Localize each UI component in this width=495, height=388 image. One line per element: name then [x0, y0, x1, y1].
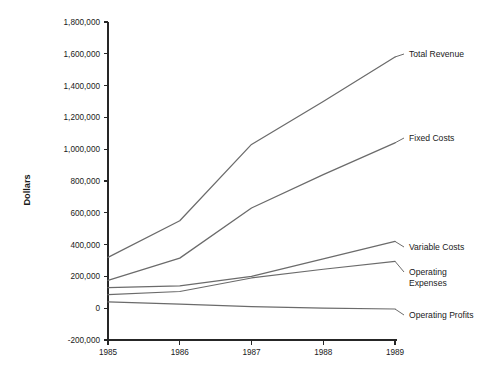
- y-tick-label: 1,400,000: [64, 82, 101, 91]
- y-axis: 1,800,0001,600,0001,400,0001,200,0001,00…: [64, 18, 108, 345]
- series-label-line: Operating Profits: [409, 310, 473, 320]
- series-line-operating-expenses: [108, 261, 395, 294]
- chart-canvas: 1,800,0001,600,0001,400,0001,200,0001,00…: [0, 0, 495, 388]
- y-tick-label: 1,000,000: [64, 145, 101, 154]
- series-label-line: Fixed Costs: [409, 133, 454, 143]
- leader-line-variable-costs: [395, 241, 404, 247]
- series-line-total-revenue: [108, 57, 395, 257]
- line-chart: 1,800,0001,600,0001,400,0001,200,0001,00…: [0, 0, 495, 388]
- leader-line-operating-profits: [395, 309, 404, 315]
- x-tick-label: 1987: [242, 348, 261, 357]
- y-tick-label: 0: [95, 304, 100, 313]
- series-label-variable-costs: Variable Costs: [409, 242, 464, 252]
- series-lines: [108, 57, 395, 309]
- series-label-line: Expenses: [409, 278, 447, 288]
- y-tick-label: -200,000: [68, 336, 101, 345]
- x-tick-label: 1985: [99, 348, 118, 357]
- series-label-total-revenue: Total Revenue: [409, 49, 464, 59]
- leader-line-fixed-costs: [395, 138, 404, 143]
- y-tick-label: 200,000: [70, 272, 100, 281]
- series-label-line: Total Revenue: [409, 49, 464, 59]
- y-tick-label: 400,000: [70, 241, 100, 250]
- axis-titles: Dollars: [22, 174, 32, 205]
- series-line-variable-costs: [108, 241, 395, 287]
- series-label-line: Variable Costs: [409, 242, 464, 252]
- series-line-operating-profits: [108, 302, 395, 309]
- y-tick-label: 1,600,000: [64, 50, 101, 59]
- y-tick-label: 1,200,000: [64, 113, 101, 122]
- leader-line-total-revenue: [395, 54, 404, 57]
- series-label-operating-expenses: OperatingExpenses: [409, 267, 447, 288]
- leader-line-operating-expenses: [395, 261, 404, 272]
- series-label-operating-profits: Operating Profits: [409, 310, 473, 320]
- x-axis: 19851986198719881989: [99, 340, 405, 357]
- y-tick-label: 1,800,000: [64, 18, 101, 27]
- y-axis-title: Dollars: [22, 174, 32, 205]
- x-tick-label: 1988: [314, 348, 333, 357]
- y-tick-label: 800,000: [70, 177, 100, 186]
- series-line-fixed-costs: [108, 143, 395, 281]
- x-tick-label: 1989: [386, 348, 405, 357]
- series-labels: Total RevenueFixed CostsVariable CostsOp…: [395, 49, 473, 320]
- series-label-line: Operating: [409, 267, 447, 277]
- series-label-fixed-costs: Fixed Costs: [409, 133, 454, 143]
- x-tick-label: 1986: [171, 348, 190, 357]
- y-tick-label: 600,000: [70, 209, 100, 218]
